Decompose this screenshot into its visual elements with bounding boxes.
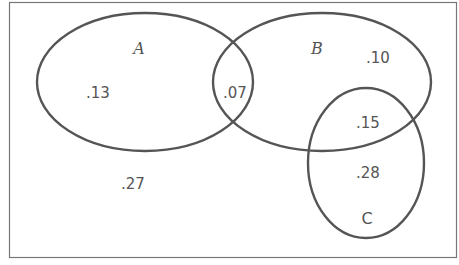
region-c-only-value: .28 xyxy=(356,164,380,182)
set-b-label: B xyxy=(310,39,323,58)
set-a-label: A xyxy=(131,39,145,58)
set-b-ellipse xyxy=(213,13,431,151)
venn-diagram: A B C .13 .07 .10 .15 .28 .27 xyxy=(0,0,459,265)
set-a-ellipse xyxy=(37,13,253,151)
region-b-only-value: .10 xyxy=(366,49,390,67)
region-b-and-c-value: .15 xyxy=(356,114,380,132)
set-c-label: C xyxy=(361,209,372,228)
region-a-only-value: .13 xyxy=(86,84,110,102)
region-outside-value: .27 xyxy=(121,175,145,193)
region-a-and-b-value: .07 xyxy=(223,84,247,102)
